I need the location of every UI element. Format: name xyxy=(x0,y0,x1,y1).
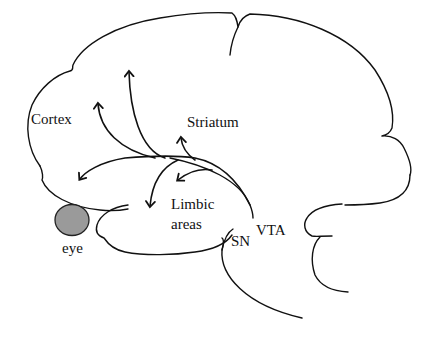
projection-arrow-limbic-small xyxy=(178,169,212,180)
brain-outline-back xyxy=(345,175,410,205)
label-striatum: Striatum xyxy=(187,114,239,131)
eye-shape xyxy=(55,205,89,236)
label-eye: eye xyxy=(62,240,83,257)
label-sn: SN xyxy=(231,233,250,250)
brain-outline-sulcus xyxy=(230,27,238,55)
label-vta: VTA xyxy=(256,222,286,239)
label-cortex: Cortex xyxy=(31,111,72,128)
brain-outline-cerebellum-top xyxy=(305,204,342,236)
brain-outline-frontal-bottom xyxy=(40,166,128,211)
brain-outline-cerebellum-bottom xyxy=(312,237,348,292)
projection-arrow-cortex-tall xyxy=(129,72,165,158)
projection-arrow-cortex-short xyxy=(98,104,155,158)
label-limbic-line1: Limbic xyxy=(171,196,214,213)
brain-outline-cortex xyxy=(28,13,411,175)
projection-trunk xyxy=(80,156,250,205)
label-limbic-line2: areas xyxy=(171,216,202,233)
brain-diagram xyxy=(0,0,432,341)
